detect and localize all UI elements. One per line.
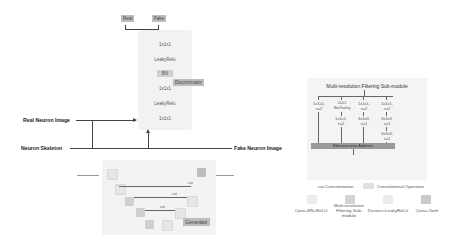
legend-conv-tanh: Conv+Tanh <box>412 208 442 213</box>
connector <box>341 96 342 100</box>
multires-title: Multi-resolution Filtering Sub-module <box>307 83 427 89</box>
arrow-head <box>133 118 137 122</box>
legend-swatch-conv-tanh <box>421 195 431 204</box>
legend-multires: Multi-resolution Filtering Sub-module <box>332 203 366 218</box>
disc-layer-2: LeakyRelu <box>138 57 192 62</box>
multires-block <box>145 220 154 229</box>
cat-label: cat <box>160 205 165 209</box>
branch4-op3: 3x3x3, s=1 <box>377 131 397 141</box>
branch3-op2: 3x3x3, s=1 <box>354 116 374 126</box>
disc-layer-5: LeakyRelu <box>138 101 192 106</box>
arrow-head <box>146 129 150 133</box>
connector <box>341 127 342 143</box>
deconv-block <box>187 196 198 207</box>
skip-connection <box>134 197 187 198</box>
connector <box>92 120 93 148</box>
disc-layer-6: 1x1x1 <box>138 116 192 121</box>
connector <box>353 149 354 155</box>
legend-conv-bn-relu: Conv+BN+ReLU <box>293 208 329 213</box>
cat-label: cat <box>188 181 193 185</box>
disc-layer-4: 1x1x1 <box>138 86 192 91</box>
discriminator-label: Discriminator <box>173 79 204 86</box>
multires-block <box>125 197 134 206</box>
real-output-tag: Real <box>121 15 134 22</box>
cat-label: cat <box>172 192 177 196</box>
connector <box>77 175 99 176</box>
skip-connection <box>145 210 175 211</box>
legend-swatch-deconv <box>383 195 393 204</box>
neuron-skeleton-label: Neuron Skeleton <box>21 145 62 151</box>
branch2-op1: 2x2x1 MaxPooling <box>329 101 355 111</box>
conv-block <box>107 169 118 180</box>
fake-output-tag: Fake <box>152 15 166 22</box>
deconv-block <box>162 220 173 231</box>
connector <box>318 96 393 97</box>
tanh-block <box>197 168 206 177</box>
legend-conv-op-swatch <box>363 183 374 189</box>
legend-deconv: Deconv+LeakyReLU <box>366 208 410 213</box>
fake-neuron-image-label: Fake Neuron Image <box>234 145 282 151</box>
real-neuron-image-label: Real Neuron Image <box>23 117 70 123</box>
branch4-op2: 3x3x3, s=1 <box>377 116 397 126</box>
connector <box>318 96 319 100</box>
connector <box>216 175 234 176</box>
legend-concatenation: cat Concatenation <box>318 184 353 189</box>
connector <box>363 96 364 100</box>
multires-block <box>136 208 145 217</box>
generator-box: cat cat cat Generator <box>102 160 216 235</box>
connector <box>318 112 319 143</box>
legend-conv-op: Convolutional Operation <box>377 184 424 189</box>
generator-label: Generator <box>183 218 210 226</box>
connector <box>70 148 232 149</box>
disc-layer-3: BN <box>157 70 173 77</box>
connector <box>148 131 149 148</box>
branch2-op2: 1x1x1, s=2 <box>331 116 351 126</box>
branch4-op1: 1x1x1, s=2 <box>377 101 397 111</box>
branch1-op1: 1x1x1, s=2 <box>309 101 329 111</box>
legend-swatch-conv-bn-relu <box>307 195 317 204</box>
disc-layer-1: 1x1x1 <box>138 42 192 47</box>
connector <box>76 120 136 121</box>
connector <box>386 96 387 100</box>
connector <box>363 127 364 143</box>
skip-connection <box>119 186 191 187</box>
branch3-op1: 1x1x1, s=2 <box>354 101 374 111</box>
multires-submodule-box: Multi-resolution Filtering Sub-module 1x… <box>307 78 427 180</box>
